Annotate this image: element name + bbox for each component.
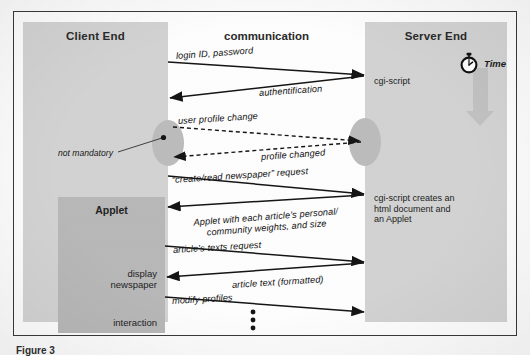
client-activation-bulge bbox=[152, 120, 184, 166]
cgi-script-label: cgi-script bbox=[374, 76, 410, 87]
figure-caption: Figure 3 bbox=[16, 345, 55, 356]
note-not-mandatory: not mandatory bbox=[58, 148, 113, 158]
column-title-server: Server End bbox=[365, 30, 507, 42]
time-arrow-shaft bbox=[473, 68, 488, 113]
time-arrow-head bbox=[466, 111, 494, 126]
stopwatch-icon bbox=[459, 52, 479, 74]
column-title-client: Client End bbox=[23, 30, 168, 42]
cgi-script-creates-label: cgi-script creates an html document and … bbox=[374, 193, 484, 225]
display-newspaper-line1: display bbox=[127, 268, 157, 279]
time-axis-label: Time bbox=[484, 58, 506, 69]
cgi-creates-line1: cgi-script creates an bbox=[374, 193, 455, 203]
column-title-communication: communication bbox=[168, 30, 365, 42]
applet-label: Applet bbox=[58, 204, 165, 216]
cgi-creates-line3: an Applet bbox=[374, 214, 412, 224]
display-newspaper-line2: newspaper bbox=[111, 279, 157, 290]
applet-box: Applet display newspaper interaction bbox=[58, 197, 165, 333]
server-activation-bulge bbox=[349, 118, 381, 166]
interaction-label: interaction bbox=[62, 317, 157, 328]
cgi-creates-line2: html document and bbox=[374, 204, 451, 214]
display-newspaper-label: display newspaper bbox=[62, 268, 157, 290]
